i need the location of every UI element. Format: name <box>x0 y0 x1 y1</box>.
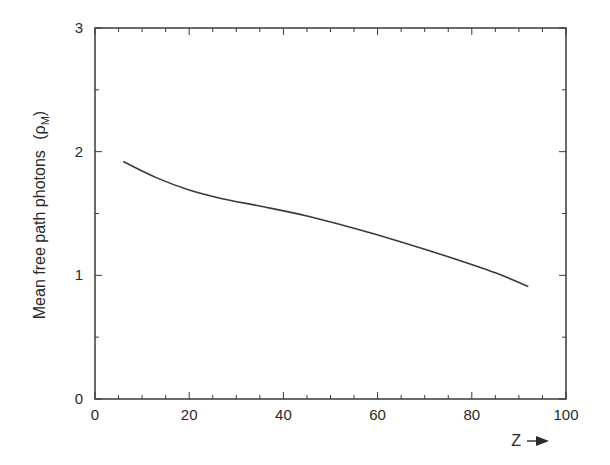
x-axis-ticks <box>95 28 566 399</box>
x-axis-arrow-icon <box>527 436 549 446</box>
data-line <box>123 162 528 287</box>
y-tick-label: 0 <box>75 390 83 407</box>
y-tick-label: 1 <box>75 266 83 283</box>
y-axis-ticks <box>95 28 566 399</box>
x-tick-label: 100 <box>553 406 578 423</box>
y-axis-unit-symbol: ρ <box>31 125 48 134</box>
x-axis-tick-labels: 020406080100 <box>91 406 579 423</box>
y-tick-label: 3 <box>75 19 83 36</box>
y-axis-unit-subscript: M <box>39 116 51 125</box>
plot-border <box>95 28 566 399</box>
data-series <box>123 162 528 287</box>
x-tick-label: 80 <box>463 406 480 423</box>
x-tick-label: 40 <box>275 406 292 423</box>
chart-canvas: 020406080100 0123 Z Mean free path photo… <box>0 0 610 465</box>
x-axis-label: Z <box>511 432 521 449</box>
x-tick-label: 60 <box>369 406 386 423</box>
y-axis-label: Mean free path photons (ρM) <box>31 111 51 319</box>
x-tick-label: 20 <box>181 406 198 423</box>
x-tick-label: 0 <box>91 406 99 423</box>
plot-frame <box>95 28 566 399</box>
y-axis-tick-labels: 0123 <box>75 19 83 407</box>
y-tick-label: 2 <box>75 143 83 160</box>
y-axis-label-main: Mean free path photons <box>31 150 48 319</box>
